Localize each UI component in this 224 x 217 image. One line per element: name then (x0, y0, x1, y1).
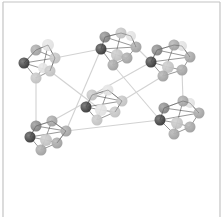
node-highlight (31, 73, 42, 84)
network-graph-canvas (0, 0, 224, 217)
network-diagram (0, 0, 224, 217)
node-highlight (40, 134, 52, 146)
node-highlight (92, 115, 103, 126)
node-highlight (171, 117, 183, 129)
node-highlight (111, 49, 123, 61)
node-highlight (36, 145, 47, 156)
node-highlight (177, 65, 188, 76)
node-highlight (169, 129, 180, 140)
node-highlight (158, 71, 169, 82)
node-highlight (95, 104, 107, 116)
node-highlight (185, 122, 196, 133)
node-highlight (122, 53, 133, 64)
node-highlight (108, 60, 119, 71)
